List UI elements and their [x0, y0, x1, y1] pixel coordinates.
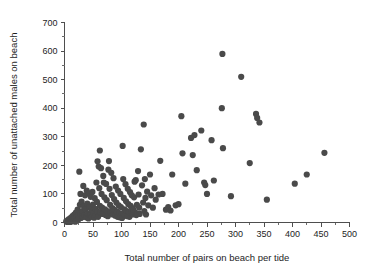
- data-point: [120, 143, 126, 149]
- data-point: [204, 191, 210, 197]
- data-point: [211, 177, 217, 183]
- data-point: [194, 167, 200, 173]
- x-tick-label: 0: [62, 229, 67, 239]
- data-point: [142, 195, 148, 201]
- data-point: [191, 132, 197, 138]
- data-point: [94, 158, 100, 164]
- scatter-plot-figure: 0100200300400500600700 05010015020025030…: [0, 0, 374, 272]
- data-point: [292, 181, 298, 187]
- data-point: [142, 176, 148, 182]
- y-tick-label: 500: [42, 75, 57, 85]
- data-point: [93, 179, 99, 185]
- x-axis-ticks: [65, 223, 350, 227]
- x-tick-label: 250: [199, 229, 214, 239]
- y-tick-label: 0: [52, 218, 57, 228]
- y-tick-label: 200: [42, 161, 57, 171]
- data-point: [108, 170, 114, 176]
- y-tick-label: 100: [42, 189, 57, 199]
- x-tick-label: 450: [313, 229, 328, 239]
- x-tick-label: 150: [142, 229, 157, 239]
- y-tick-label: 300: [42, 132, 57, 142]
- data-point: [167, 207, 173, 213]
- data-point: [100, 173, 106, 179]
- data-point: [190, 152, 196, 158]
- y-axis: 0100200300400500600700: [42, 18, 64, 228]
- y-tick-label: 700: [42, 18, 57, 28]
- data-point: [133, 177, 139, 183]
- data-point: [178, 113, 184, 119]
- data-point: [106, 186, 112, 192]
- data-point: [169, 171, 175, 177]
- y-axis-title: Total number of unattached males on beac…: [8, 33, 19, 218]
- y-tick-label: 600: [42, 46, 57, 56]
- data-point: [220, 145, 226, 151]
- data-point: [247, 160, 253, 166]
- data-point: [147, 171, 153, 177]
- y-axis-tick-labels: 0100200300400500600700: [42, 18, 57, 228]
- data-point: [141, 121, 147, 127]
- data-point: [135, 168, 141, 174]
- x-tick-label: 400: [285, 229, 300, 239]
- x-tick-label: 300: [228, 229, 243, 239]
- data-point: [238, 74, 244, 80]
- data-point: [179, 150, 185, 156]
- x-axis: 050100150200250300350400450500: [62, 223, 357, 239]
- data-point: [143, 211, 149, 217]
- data-point: [208, 137, 214, 143]
- data-point: [98, 165, 104, 171]
- data-point: [139, 182, 145, 188]
- data-point: [228, 193, 234, 199]
- x-tick-label: 500: [342, 229, 357, 239]
- data-point: [89, 189, 95, 195]
- data-point: [175, 201, 181, 207]
- data-point: [150, 205, 156, 211]
- data-point: [159, 191, 165, 197]
- data-points-group: [63, 51, 327, 225]
- data-point: [219, 51, 225, 57]
- data-point: [138, 146, 144, 152]
- x-tick-label: 200: [171, 229, 186, 239]
- data-point: [321, 150, 327, 156]
- y-tick-label: 400: [42, 103, 57, 113]
- x-tick-label: 350: [256, 229, 271, 239]
- data-point: [76, 169, 82, 175]
- y-axis-ticks: [61, 23, 65, 223]
- data-point: [264, 197, 270, 203]
- data-point: [151, 185, 157, 191]
- data-point: [202, 182, 208, 188]
- x-tick-label: 100: [114, 229, 129, 239]
- data-point: [198, 127, 204, 133]
- data-point: [256, 119, 262, 125]
- x-axis-title: Total number of pairs on beach per tide: [125, 252, 290, 263]
- data-point: [304, 171, 310, 177]
- data-point: [110, 175, 116, 181]
- data-point: [97, 147, 103, 153]
- data-point: [96, 185, 102, 191]
- data-point: [136, 191, 142, 197]
- x-axis-tick-labels: 050100150200250300350400450500: [62, 229, 357, 239]
- chart-canvas: 0100200300400500600700 05010015020025030…: [0, 0, 374, 272]
- x-tick-label: 50: [88, 229, 98, 239]
- data-point: [136, 205, 142, 211]
- data-point: [182, 181, 188, 187]
- data-point: [148, 192, 154, 198]
- data-point: [106, 158, 112, 164]
- data-point: [157, 158, 163, 164]
- data-point: [219, 105, 225, 111]
